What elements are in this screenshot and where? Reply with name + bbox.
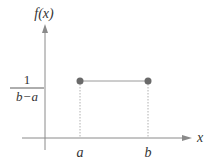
- fraction-denominator: b−a: [16, 89, 38, 104]
- uniform-pdf-diagram: f(x) x a b 1 b−a: [0, 0, 210, 167]
- point-a: [77, 78, 84, 85]
- y-axis-arrowhead: [42, 24, 48, 33]
- x-tick-label-b: b: [145, 145, 152, 160]
- x-axis-arrowhead: [182, 135, 192, 141]
- point-b: [145, 78, 152, 85]
- x-tick-label-a: a: [77, 145, 84, 160]
- y-axis-label: f(x): [34, 6, 54, 22]
- fraction-numerator: 1: [24, 72, 31, 87]
- x-axis-label: x: [196, 130, 204, 145]
